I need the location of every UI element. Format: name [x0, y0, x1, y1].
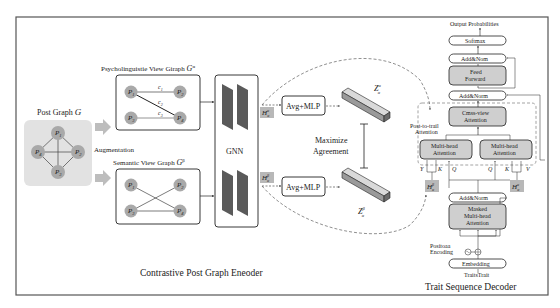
- trait-sequence-decoder: Output Probabilities Softmax Add&Nom Fee…: [410, 21, 545, 292]
- svg-text:Maximize: Maximize: [315, 136, 348, 145]
- sem-node-p2: P2: [174, 179, 187, 192]
- psych-node-p3: P3: [125, 112, 138, 125]
- svg-text:K: K: [437, 166, 443, 172]
- z-beta-bar: Zβα: [342, 168, 390, 218]
- psych-node-p4: P4: [174, 112, 187, 125]
- z-alpha-bar: Zαα: [342, 83, 390, 122]
- svg-text:Attention: Attention: [464, 117, 487, 123]
- svg-text:Hαα: Hαα: [511, 182, 520, 192]
- node-p2: P2: [71, 145, 85, 159]
- svg-text:Multi-head: Multi-head: [491, 143, 518, 149]
- semantic-view-label: Semantic View Graph Gβ: [113, 158, 185, 167]
- sem-node-p1: P1: [125, 179, 138, 192]
- svg-text:Zβα: Zβα: [358, 206, 365, 218]
- add-norm-top-box: Add&Nom: [449, 54, 506, 63]
- svg-text:Embedding: Embedding: [462, 261, 490, 267]
- svg-text:Softmax: Softmax: [465, 38, 485, 44]
- svg-text:Agreement: Agreement: [313, 147, 349, 156]
- positional-encoding-icon: [465, 249, 471, 255]
- psycholinguistic-view-graph: Psycholinguistie View Giraph Gα c1 c2 c3…: [101, 64, 200, 130]
- encoder-title: Contrastive Post Graph Eneoder: [140, 268, 264, 278]
- psych-node-p1: P1: [125, 86, 138, 99]
- psych-node-p2: P2: [174, 86, 187, 99]
- embedding-box: Embedding: [449, 259, 506, 268]
- svg-text:Attention: Attention: [466, 220, 489, 226]
- h-alpha-decoder-tag: Hαα: [510, 180, 524, 192]
- h-alpha-tag: Hαα: [260, 107, 274, 118]
- svg-text:Q: Q: [452, 166, 457, 172]
- svg-text:Avg+MLP: Avg+MLP: [286, 102, 321, 111]
- svg-text:V: V: [526, 166, 531, 172]
- diagram-stage: Post Graph G P1 P4 P2 P3 Augmentation Ps…: [0, 0, 560, 308]
- svg-text:Forward: Forward: [465, 76, 485, 82]
- svg-text:Hβα: Hβα: [426, 182, 435, 192]
- svg-text:Attention: Attention: [433, 150, 456, 156]
- cross-view-attention-box: Cmss-view Attention: [449, 107, 506, 126]
- masked-mha-box: Masked Multi-head Attention: [449, 204, 506, 229]
- svg-text:Avg+MLP: Avg+MLP: [286, 183, 321, 192]
- svg-text:Hαα: Hαα: [261, 108, 270, 118]
- node-p3: P3: [51, 165, 65, 179]
- feed-forward-box: Feed Forward: [449, 66, 506, 85]
- svg-text:Zαα: Zαα: [374, 83, 381, 95]
- svg-text:Encoding: Encoding: [430, 249, 453, 255]
- node-p4: P4: [31, 145, 45, 159]
- add-norm-low-box: Add&Norm: [449, 193, 506, 202]
- mha-left-box: Multi-head Attention: [420, 140, 472, 159]
- svg-text:Masked: Masked: [468, 206, 487, 212]
- svg-text:Y: Y: [420, 166, 424, 172]
- trait-input-label: TraitsTrait: [464, 272, 490, 278]
- svg-text:Cmss-view: Cmss-view: [462, 110, 490, 116]
- svg-text:Q: Q: [488, 166, 493, 172]
- decoder-title: Trait Sequence Decoder: [425, 282, 517, 292]
- augmentation-arrow-bottom: [95, 170, 111, 186]
- avg-mlp-top: Avg+MLP: [282, 96, 325, 115]
- node-p1: P1: [51, 126, 65, 140]
- sem-node-p3: P3: [125, 205, 138, 218]
- svg-text:Add&Norm: Add&Norm: [459, 195, 488, 201]
- softmax-box: Softmax: [449, 36, 506, 45]
- augmentation-arrow-top: [95, 119, 111, 135]
- gnn-block: GNN: [215, 75, 258, 227]
- post-graph-label: Post Graph G: [37, 107, 82, 117]
- svg-text:Multi-head: Multi-head: [431, 143, 458, 149]
- output-probabilities-label: Output Probabilities: [450, 21, 499, 27]
- svg-text:Add&Nom: Add&Nom: [461, 56, 488, 62]
- h-beta-tag: Hβα: [260, 172, 274, 183]
- avg-mlp-bottom: Avg+MLP: [282, 177, 325, 196]
- mha-right-box: Multi-head Attention: [480, 140, 532, 159]
- semantic-view-graph: Semantic View Graph Gβ P1 P2 P3 P4: [113, 158, 200, 224]
- svg-text:Attention: Attention: [493, 150, 516, 156]
- add-op-icon: [475, 249, 481, 255]
- augmentation-label: Augmentation: [94, 146, 135, 154]
- post-graph: Post Graph G P1 P4 P2 P3: [24, 107, 92, 186]
- svg-text:Hβα: Hβα: [261, 173, 270, 183]
- h-beta-decoder-tag: Hβα: [425, 180, 439, 192]
- psych-view-label: Psycholinguistie View Giraph Gα: [101, 64, 195, 73]
- svg-text:Add&Norm: Add&Norm: [459, 93, 488, 99]
- maximize-agreement: Maximize Agreement: [313, 124, 368, 168]
- svg-text:Multi-head: Multi-head: [464, 213, 491, 219]
- svg-text:K: K: [504, 166, 510, 172]
- post-to-trait-label-2: Attention: [415, 129, 438, 135]
- add-norm-mid-box: Add&Norm: [449, 91, 506, 100]
- svg-text:Feed: Feed: [470, 69, 482, 75]
- gnn-label: GNN: [226, 147, 244, 156]
- sem-node-p4: P4: [174, 205, 187, 218]
